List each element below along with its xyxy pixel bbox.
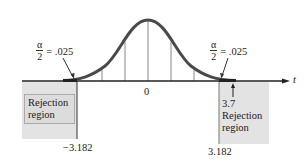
alpha-numerator: α (210, 40, 217, 51)
center-label: 0 (144, 86, 149, 97)
left-rejection-label: Rejection region (24, 94, 75, 124)
left-alpha-label: α 2 = .025 (36, 40, 73, 62)
rejection-line1: Rejection (28, 97, 71, 109)
rejection-line2: region (222, 122, 262, 134)
alpha-value: = .025 (46, 46, 73, 57)
axis-arrow-icon (282, 79, 290, 84)
rejection-line2: region (28, 109, 71, 121)
right-critical-value: 3.182 (208, 146, 232, 157)
rejection-line1: Rejection (222, 110, 262, 122)
left-critical-value: −3.182 (63, 142, 93, 153)
alpha-denominator: 2 (211, 51, 216, 62)
axis-label: t (293, 74, 296, 85)
t-distribution-diagram (0, 0, 307, 163)
right-alpha-label: α 2 = .025 (210, 40, 247, 62)
alpha-denominator: 2 (37, 51, 42, 62)
alpha-value: = .025 (220, 46, 247, 57)
left-alpha-arrowhead-icon (71, 73, 75, 79)
alpha-numerator: α (36, 40, 43, 51)
test-statistic-value: 3.7 (222, 98, 262, 110)
right-rejection-label: 3.7 Rejection region (222, 98, 262, 134)
